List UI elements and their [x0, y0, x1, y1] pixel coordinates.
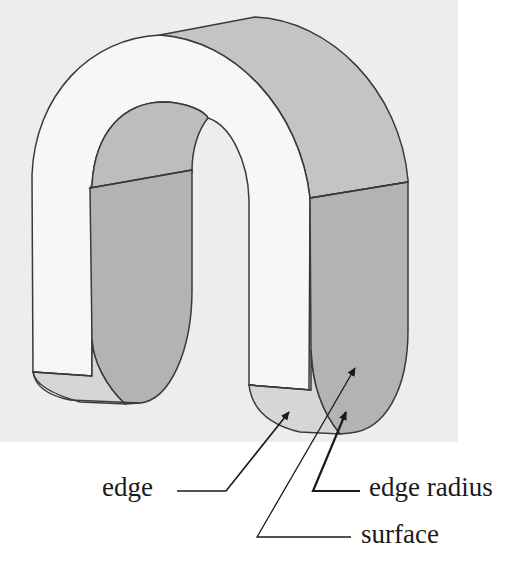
right-leg-side-surface — [310, 182, 408, 434]
label-surface: surface — [361, 521, 439, 548]
label-edge-radius: edge radius — [369, 474, 493, 501]
label-edge: edge — [102, 474, 153, 501]
diagram-canvas: edge edge radius surface — [0, 0, 524, 561]
left-leg-inner-surface — [90, 170, 192, 404]
